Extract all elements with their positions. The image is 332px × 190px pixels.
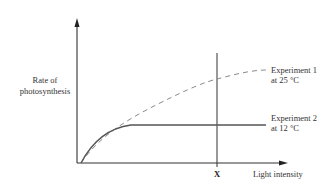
y-axis-label-line2: photosynthesis [20,86,71,96]
x-axis-arrow-icon [279,161,288,166]
x-marker-label: X [214,169,221,179]
experiment-2-curve [81,125,266,163]
experiment-1-label-line1: Experiment 1 [271,65,317,75]
photosynthesis-chart: Rate of photosynthesis Experiment 1 at 2… [0,0,332,190]
experiment-1-curve [81,70,266,163]
y-axis-arrow-icon [75,18,80,27]
experiment-2-label-line1: Experiment 2 [271,113,317,123]
experiment-1-label-line2: at 25 °C [271,75,299,85]
x-axis-label: Light intensity [253,169,304,179]
experiment-2-label-line2: at 12 °C [271,123,299,133]
y-axis-label-line1: Rate of [33,75,58,85]
